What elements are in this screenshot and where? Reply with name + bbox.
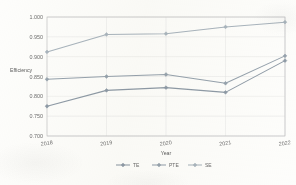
chart-background — [0, 0, 296, 185]
x-axis-title: Year — [161, 150, 172, 156]
y-tick-label: 0.950 — [30, 34, 44, 40]
y-tick-label: 0.800 — [30, 93, 44, 99]
y-tick-label: 1.000 — [30, 14, 44, 20]
y-axis-title: Efficiency — [10, 67, 33, 73]
y-tick-label: 0.750 — [30, 113, 44, 119]
chart-canvas: 0.7000.7500.8000.8500.9000.9501.000 2018… — [0, 0, 296, 185]
y-tick-label: 0.850 — [30, 74, 44, 80]
y-tick-label: 0.700 — [30, 133, 44, 139]
legend-label-PTE: PTE — [169, 162, 179, 168]
legend-label-SE: SE — [205, 162, 212, 168]
y-tick-label: 0.900 — [30, 54, 44, 60]
legend-label-TE: TE — [133, 162, 140, 168]
line-chart: 0.7000.7500.8000.8500.9000.9501.000 2018… — [0, 0, 296, 185]
